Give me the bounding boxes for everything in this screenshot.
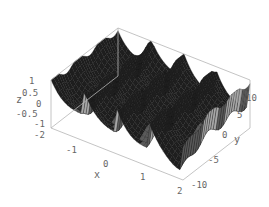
y-axis-label: y — [234, 134, 240, 145]
z-tick-label: 1 — [29, 76, 34, 86]
y-tick-label: -5 — [208, 155, 219, 165]
y-tick-label: -10 — [191, 180, 207, 190]
z-tick-label: -2 — [34, 130, 45, 140]
x-tick-label: -1 — [66, 145, 77, 155]
surface — [51, 31, 250, 170]
x-tick-label: 0 — [103, 159, 108, 169]
x-tick-label: 2 — [177, 186, 182, 196]
z-axis-label: z — [16, 94, 22, 105]
y-tick-label: 10 — [246, 93, 257, 103]
z-tick-label: 0.5 — [22, 88, 38, 98]
x-tick-label: 1 — [140, 172, 145, 182]
z-tick-label: -0.5 — [16, 109, 38, 119]
y-tick-label: 5 — [237, 110, 242, 120]
surface-plot: 1 0.5 0 -0.5 -1 -2 z -1 0 1 2 x -10 -5 0… — [0, 0, 269, 207]
z-tick-label: -1 — [34, 119, 45, 129]
x-axis-label: x — [94, 169, 100, 180]
z-tick-label: 0 — [36, 99, 41, 109]
z-axis: 1 0.5 0 -0.5 -1 -2 z — [16, 76, 45, 140]
y-tick-label: 0 — [222, 130, 227, 140]
